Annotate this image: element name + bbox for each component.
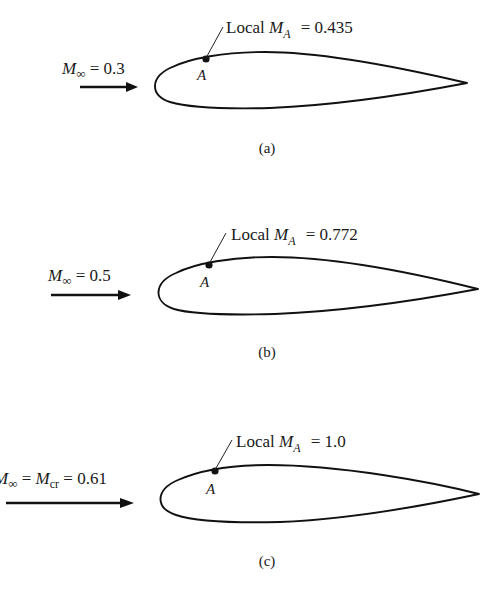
panel-b: M∞ = 0.5 A Local MA = 0.772 (b) <box>47 225 478 361</box>
freestream-mach-label: M∞ = 0.5 <box>47 266 111 288</box>
point-a-label: A <box>199 274 210 290</box>
flow-arrow-icon <box>51 290 131 300</box>
point-a-label: A <box>196 67 207 83</box>
airfoil-mach-figure: M∞ = 0.3 A Local MA = 0.435 (a) M <box>0 0 493 602</box>
panel-c: M∞ = Mcr = 0.61 A Local MA = 1.0 (c) <box>0 432 479 570</box>
point-a-marker <box>202 55 209 62</box>
freestream-mach-label: M∞ = 0.3 <box>61 59 125 81</box>
panel-caption: (c) <box>259 553 276 570</box>
local-mach-label: Local MA = 1.0 <box>236 432 346 455</box>
freestream-mach-label: M∞ = Mcr = 0.61 <box>0 469 107 491</box>
local-mach-label: Local MA = 0.435 <box>226 18 353 41</box>
point-a-marker <box>211 467 218 474</box>
leader-line <box>215 440 232 470</box>
flow-arrow-icon <box>6 498 134 508</box>
flow-arrow-icon <box>80 82 138 92</box>
panel-caption: (b) <box>258 344 276 361</box>
point-a-marker <box>205 261 212 268</box>
panel-a: M∞ = 0.3 A Local MA = 0.435 (a) <box>61 18 467 157</box>
panel-caption: (a) <box>259 140 276 157</box>
local-mach-label: Local MA = 0.772 <box>231 225 358 248</box>
leader-line <box>206 27 223 58</box>
point-a-label: A <box>205 481 216 497</box>
